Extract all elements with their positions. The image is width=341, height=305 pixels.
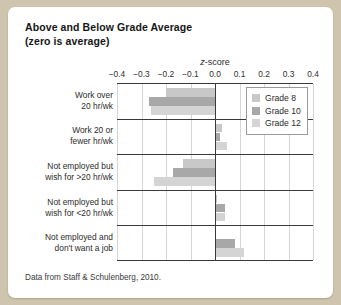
grid-line — [313, 84, 314, 260]
legend-label: Grade 8 — [265, 93, 296, 103]
title-line-2: (zero is average) — [25, 35, 315, 49]
y-category-label: Not employed butwish for <20 hr/wk — [8, 197, 113, 219]
legend-label: Grade 12 — [265, 118, 301, 128]
bar — [183, 159, 215, 168]
bar — [154, 177, 215, 186]
bar — [173, 168, 215, 177]
legend-item: Grade 10 — [252, 105, 301, 118]
x-axis-title-rest: -score — [205, 57, 230, 67]
legend-swatch — [252, 94, 260, 102]
bar — [215, 213, 225, 222]
title-line-1: Above and Below Grade Average — [25, 21, 192, 33]
bar — [215, 142, 227, 151]
legend-swatch — [252, 107, 260, 115]
legend: Grade 8Grade 10Grade 12 — [246, 87, 308, 135]
page-title: Above and Below Grade Average (zero is a… — [25, 21, 315, 48]
bar — [151, 106, 215, 115]
y-category-label: Not employed butwish for >20 hr/wk — [8, 161, 113, 183]
bar — [215, 204, 225, 213]
x-axis-title: z-score — [117, 57, 313, 67]
y-category-label: Not employed anddon't want a job — [8, 232, 113, 254]
zero-reference-line — [215, 84, 216, 260]
bar — [149, 97, 215, 106]
legend-item: Grade 12 — [252, 117, 301, 130]
chart-card: Above and Below Grade Average (zero is a… — [8, 7, 333, 298]
y-axis-category-labels: Work over20 hr/wkWork 20 orfewer hr/wkNo… — [8, 83, 113, 261]
legend-label: Grade 10 — [265, 106, 301, 116]
source-caption: Data from Staff & Schulenberg, 2010. — [25, 273, 161, 282]
y-category-label: Work 20 orfewer hr/wk — [8, 125, 113, 147]
legend-item: Grade 8 — [252, 92, 301, 105]
x-axis-tick-labels: −0.4−0.3−0.2−0.10.00.10.20.30.4 — [8, 69, 333, 81]
bar — [166, 88, 215, 97]
x-tick-label: 0.4 — [298, 69, 328, 79]
legend-swatch — [252, 119, 260, 127]
y-category-label: Work over20 hr/wk — [8, 90, 113, 112]
bar — [215, 248, 244, 257]
bar — [215, 239, 235, 248]
